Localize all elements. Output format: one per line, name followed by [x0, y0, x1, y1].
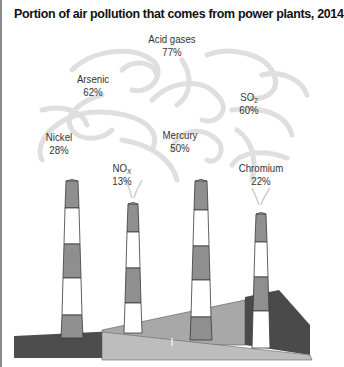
label-value: 13%	[112, 175, 131, 188]
label-mercury: Mercury 50%	[163, 129, 198, 155]
smokestack-2	[124, 203, 142, 334]
smokestack-4	[252, 213, 270, 349]
label-value: 62%	[77, 86, 109, 99]
label-chromium: Chromium 22%	[239, 162, 284, 188]
label-value: 60%	[239, 104, 258, 117]
label-so2: SO2 60%	[239, 91, 258, 117]
label-name: SO2	[239, 91, 258, 104]
label-name: Arsenic	[77, 73, 109, 86]
smokestack-3	[190, 180, 212, 341]
label-name: Nickel	[46, 131, 72, 144]
smokestack-1	[61, 180, 83, 339]
label-value: 77%	[148, 46, 195, 59]
label-acid-gases: Acid gases 77%	[148, 33, 195, 59]
label-name: Chromium	[239, 162, 284, 175]
label-nickel: Nickel 28%	[46, 131, 72, 157]
label-value: 22%	[239, 175, 284, 188]
smoke-swirls	[40, 51, 307, 180]
label-name: Acid gases	[148, 33, 195, 46]
label-arsenic: Arsenic 62%	[77, 73, 109, 99]
label-value: 50%	[163, 142, 198, 155]
label-value: 28%	[46, 144, 72, 157]
label-nox: NOX 13%	[112, 162, 131, 188]
chart-title: Portion of air pollution that comes from…	[14, 6, 344, 21]
label-name: Mercury	[163, 129, 198, 142]
label-name: NOX	[112, 162, 131, 175]
